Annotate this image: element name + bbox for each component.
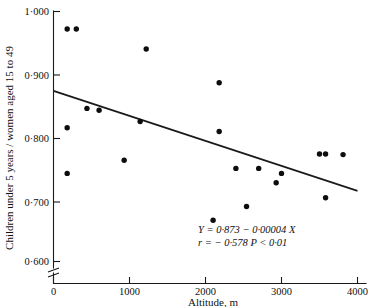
data-point — [64, 125, 69, 130]
data-point — [273, 180, 278, 185]
data-point — [64, 26, 69, 31]
data-point — [121, 158, 126, 163]
y-tick-label-0700: 0·700 — [25, 197, 50, 208]
x-axis-title: Altitude, m — [188, 296, 239, 307]
y-axis-title: Children under 5 years / women aged 15 t… — [3, 46, 15, 250]
data-point — [323, 151, 328, 156]
data-point — [256, 166, 261, 171]
data-point — [317, 151, 322, 156]
data-points-group — [64, 26, 345, 223]
y-tick-label-0600: 0·600 — [25, 256, 50, 267]
data-point — [233, 166, 238, 171]
y-tick-label-1000: 1·000 — [25, 6, 50, 17]
x-tick-label-4000: 4000 — [347, 286, 368, 297]
data-point — [216, 129, 221, 134]
y-tick-label-0900: 0·900 — [25, 70, 50, 81]
data-point — [244, 204, 249, 209]
x-tick-label-1000: 1000 — [119, 286, 140, 297]
data-point — [340, 152, 345, 157]
chart-canvas: 1·000 0·900 0·800 0·700 0·600 Children u… — [0, 0, 375, 307]
data-point — [74, 26, 79, 31]
regression-line — [54, 91, 358, 191]
data-point — [323, 195, 328, 200]
data-point — [64, 171, 69, 176]
data-point — [137, 119, 142, 124]
axis-break-upper — [48, 268, 59, 272]
x-axis-group: 0 1000 2000 3000 4000 Altitude, m — [51, 277, 368, 307]
data-point — [144, 46, 149, 51]
data-point — [216, 80, 221, 85]
correlation-stats-text: r = − 0·578 P < 0·01 — [198, 237, 287, 248]
y-axis-group: 1·000 0·900 0·800 0·700 0·600 Children u… — [3, 6, 60, 283]
annotation-group: Y = 0·873 − 0·00004 X r = − 0·578 P < 0·… — [198, 224, 296, 248]
x-tick-label-3000: 3000 — [271, 286, 292, 297]
regression-equation-text: Y = 0·873 − 0·00004 X — [198, 224, 296, 235]
data-point — [279, 171, 284, 176]
x-tick-label-0: 0 — [51, 286, 56, 297]
data-point — [210, 218, 215, 223]
scatter-plot-figure: 1·000 0·900 0·800 0·700 0·600 Children u… — [0, 0, 375, 307]
data-point — [96, 108, 101, 113]
data-point — [84, 106, 89, 111]
y-tick-label-0800: 0·800 — [25, 133, 50, 144]
